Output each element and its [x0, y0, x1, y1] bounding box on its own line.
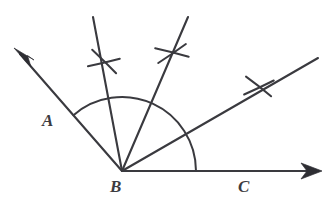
- label-b: B: [110, 178, 121, 195]
- ray-construction-middle: [122, 17, 188, 171]
- geometry-canvas: [0, 0, 334, 216]
- cross-mark-middle: [155, 44, 189, 63]
- ray-group: [20, 17, 318, 171]
- cross-mark-group: [87, 44, 274, 98]
- arc-group: [73, 97, 196, 171]
- ray-ba: [20, 54, 122, 171]
- label-c: C: [238, 178, 249, 195]
- ray-bd-bisector: [122, 58, 318, 171]
- arrowhead-a: [14, 48, 34, 67]
- geometry-figure: A B C: [0, 0, 334, 216]
- ray-construction-left: [93, 17, 122, 171]
- main-compass-arc: [73, 97, 196, 171]
- label-a: A: [42, 112, 53, 129]
